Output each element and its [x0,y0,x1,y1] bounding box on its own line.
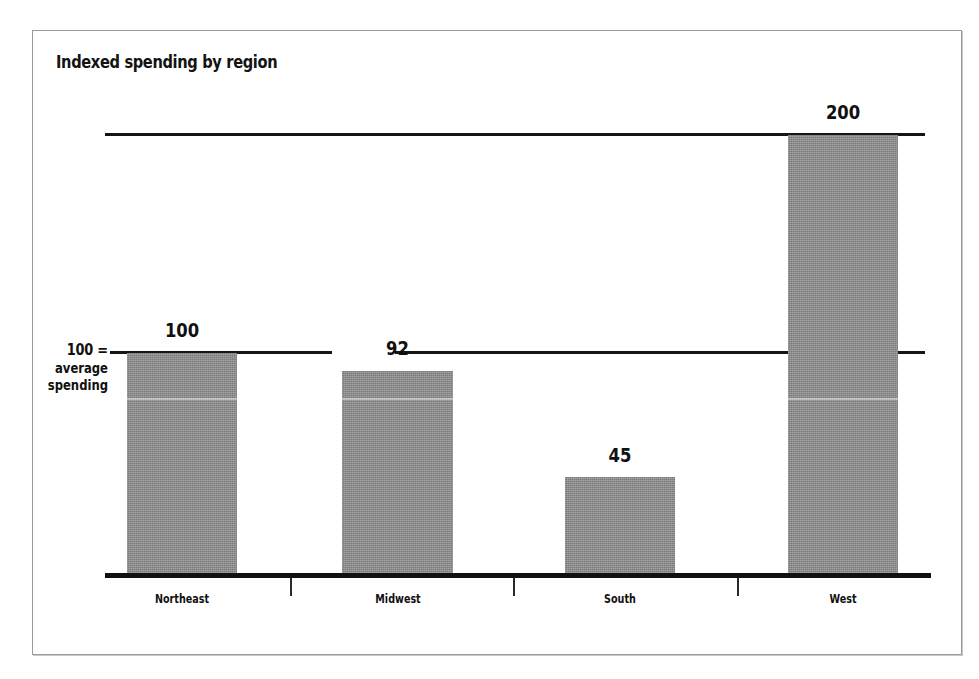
y-axis-note-line-3: spending [46,377,108,394]
y-axis-note: 100 = average spending [46,341,108,395]
chart-page: Indexed spending by region 100 92 45 200… [0,0,979,679]
chart-title: Indexed spending by region [56,52,277,72]
y-axis-note-line-2: average [46,360,108,377]
chart-frame [32,30,962,655]
y-axis-note-line-1: 100 = [46,341,108,360]
